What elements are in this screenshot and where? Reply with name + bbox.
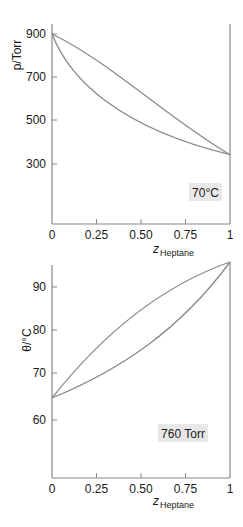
temperature-chart: 90 80 70 60 0 0.25 0.50 0.75 1 z Heptane…: [20, 262, 234, 510]
x-tick-label: 0: [49, 482, 56, 496]
vapour-line: [52, 262, 230, 398]
liquid-line: [52, 34, 230, 155]
y-tick-label: 500: [26, 113, 46, 127]
y-tick-label: 60: [33, 413, 47, 427]
x-tick-label: 0.50: [129, 228, 153, 242]
x-axis-title: z: [152, 494, 159, 508]
vapour-line: [52, 34, 230, 155]
y-tick-label: 300: [26, 157, 46, 171]
x-tick-label: 1: [227, 228, 234, 242]
x-tick-label: 1: [227, 482, 234, 496]
x-tick-label: 0.75: [174, 228, 198, 242]
y-tick-label: 70: [33, 366, 47, 380]
y-axis-title: p/Torr: [10, 40, 24, 71]
x-tick-label: 0.50: [129, 482, 153, 496]
y-tick-label: 90: [33, 280, 47, 294]
y-tick-label: 80: [33, 323, 47, 337]
pressure-annotation: 760 Torr: [161, 427, 205, 441]
liquid-line: [52, 262, 230, 398]
x-axis-title: z: [152, 242, 159, 256]
x-tick-label: 0.25: [85, 228, 109, 242]
x-tick-label: 0.75: [174, 482, 198, 496]
x-tick-label: 0.25: [85, 482, 109, 496]
temperature-annotation: 70°C: [192, 186, 219, 200]
x-axis-subscript: Heptane: [160, 248, 194, 258]
x-axis-subscript: Heptane: [160, 500, 194, 510]
y-tick-label: 700: [26, 70, 46, 84]
y-tick-label: 900: [26, 27, 46, 41]
y-axis-title: θ/°C: [20, 328, 34, 352]
figure: 900 700 500 300 0 0.25 0.50 0.75 1 z Hep…: [0, 0, 243, 527]
x-tick-label: 0: [49, 228, 56, 242]
pressure-chart: 900 700 500 300 0 0.25 0.50 0.75 1 z Hep…: [10, 24, 234, 258]
